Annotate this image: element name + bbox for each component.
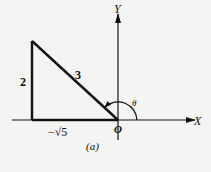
trig-diagram: Y X O 2 3 −√5 θ (a) — [0, 0, 211, 172]
diagram-svg: Y X O 2 3 −√5 θ (a) — [0, 0, 211, 172]
origin-label: O — [114, 123, 122, 135]
angle-label: θ — [132, 98, 137, 108]
figure-caption: (a) — [86, 140, 99, 153]
vertical-side-label: 2 — [20, 75, 26, 89]
hypotenuse-label: 3 — [75, 68, 81, 82]
x-axis-label: X — [193, 114, 202, 128]
y-axis-label: Y — [114, 2, 122, 16]
horizontal-side-label: −√5 — [48, 125, 67, 139]
